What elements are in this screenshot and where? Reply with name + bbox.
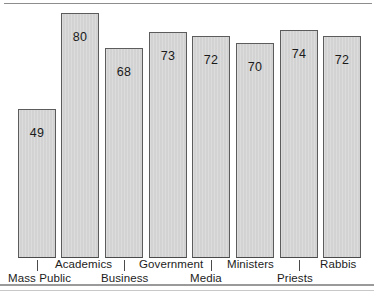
category-label: Ministers [227,258,274,270]
bar: 49 [18,109,56,258]
bar-value-label: 80 [62,30,98,44]
frame-bottom-rule [0,284,374,286]
category-label: Media [190,272,222,284]
category-label: Business [101,272,148,284]
bar-value-label: 72 [193,53,229,67]
category-label: Government [139,258,203,270]
plot-area: 49Mass Public80Academics68Business73Gove… [0,0,374,296]
category-label: Academics [55,258,112,270]
category-tick [37,260,38,271]
bar-value-label: 49 [19,126,55,140]
bar: 70 [236,43,274,258]
bar-value-label: 68 [106,65,142,79]
category-tick [124,260,125,271]
bar: 80 [61,13,99,258]
bar: 73 [149,32,187,258]
bar-chart-figure: 49Mass Public80Academics68Business73Gove… [0,0,374,296]
bar: 68 [105,48,143,258]
category-label: Priests [277,272,313,284]
bar-value-label: 70 [237,60,273,74]
frame-bottom-rule-secondary [0,290,374,291]
category-tick [211,260,212,271]
bar: 72 [192,36,230,258]
bar-value-label: 73 [150,49,186,63]
category-tick [299,260,300,271]
category-label: Rabbis [320,258,356,270]
bar: 72 [323,36,361,258]
bar-value-label: 72 [324,53,360,67]
category-label: Mass Public [8,272,71,284]
bar-value-label: 74 [281,47,317,61]
bar: 74 [280,30,318,258]
